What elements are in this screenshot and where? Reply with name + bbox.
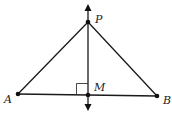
geometry-diagram: P M A B <box>0 0 172 115</box>
label-M: M <box>93 81 106 94</box>
label-P: P <box>94 13 103 26</box>
point-P <box>86 20 91 25</box>
label-A: A <box>3 93 12 106</box>
point-M <box>86 93 91 98</box>
point-B <box>155 94 160 99</box>
arrow-up-icon <box>85 4 92 11</box>
label-B: B <box>162 94 171 107</box>
point-A <box>16 92 21 97</box>
right-angle-mark <box>77 84 89 95</box>
arrow-down-icon <box>85 104 92 111</box>
